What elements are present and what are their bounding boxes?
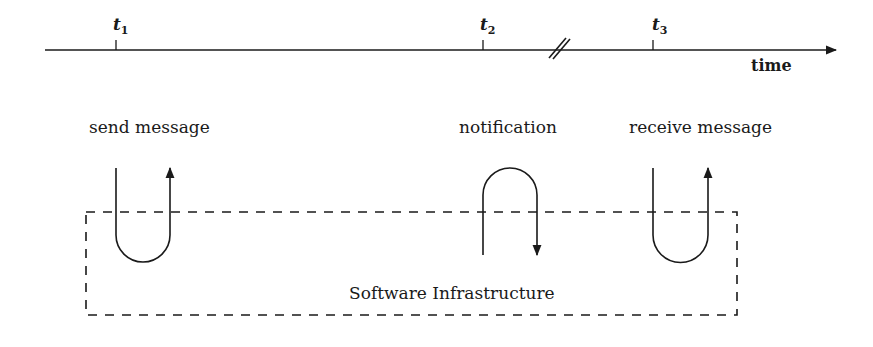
infrastructure-label: Software Infrastructure — [349, 283, 555, 303]
receive-message-arrow — [653, 168, 708, 263]
event-label-receive-message: receive message — [629, 117, 772, 137]
send-message-arrow — [116, 168, 170, 262]
axis-label-time: time — [751, 56, 792, 75]
tick-label-t2: t2 — [480, 14, 496, 37]
tick-label-t3: t3 — [652, 14, 668, 37]
tick-label-t1: t1 — [113, 14, 129, 37]
event-label-send-message: send message — [89, 117, 210, 137]
event-label-notification: notification — [459, 117, 557, 137]
axis-break-icon — [549, 38, 570, 59]
